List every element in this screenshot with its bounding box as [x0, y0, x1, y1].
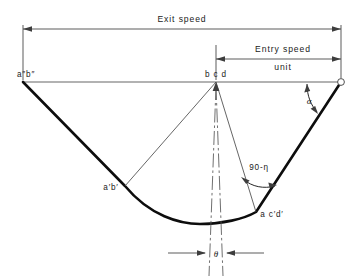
entry-speed-label: Entry speed	[255, 44, 311, 54]
alpha-arc-lower-arrowhead	[311, 106, 318, 114]
entry-speed-left-arrowhead	[216, 56, 225, 61]
alpha-arc-upper-arrowhead	[304, 84, 310, 93]
centerline-left	[209, 86, 216, 276]
technical-diagram: Exit speed Entry speed unit a″b″ b c d a…	[0, 0, 364, 279]
entry-speed-unit-label: unit	[274, 62, 291, 72]
apex-arrowhead	[213, 82, 220, 91]
exit-speed-dimension	[23, 26, 341, 31]
entry-speed-right-arrowhead	[332, 56, 341, 61]
point-label-b-c-d: b c d	[205, 70, 227, 79]
entry-speed-dimension	[216, 56, 341, 61]
exit-speed-right-arrowhead	[332, 26, 341, 31]
exit-speed-label: Exit speed	[157, 14, 206, 24]
alpha-angle-label: α	[307, 96, 312, 106]
centerline-right	[216, 86, 223, 276]
diagram-root: Exit speed Entry speed unit a″b″ b c d a…	[0, 0, 364, 279]
point-label-a-prime-b-prime: a′b′	[103, 183, 118, 192]
cutter-profile-curve	[23, 82, 341, 224]
fan-line-to-a-prime-b-prime	[125, 82, 216, 186]
theta-right-arrowhead	[226, 250, 235, 255]
exit-speed-left-arrowhead	[23, 26, 32, 31]
point-label-a-c-prime-d-prime: a c′d′	[260, 210, 283, 219]
theta-left-arrowhead	[197, 250, 206, 255]
fan-line-to-a-c-prime-d-prime	[216, 82, 256, 212]
point-label-a-double-prime-b-double-prime: a″b″	[17, 70, 35, 79]
theta-angle-label: θ	[214, 249, 219, 259]
eta-angle-indicator	[241, 177, 277, 188]
eta-angle-label: 90-η	[249, 163, 269, 172]
right-vertex-marker	[338, 79, 345, 86]
